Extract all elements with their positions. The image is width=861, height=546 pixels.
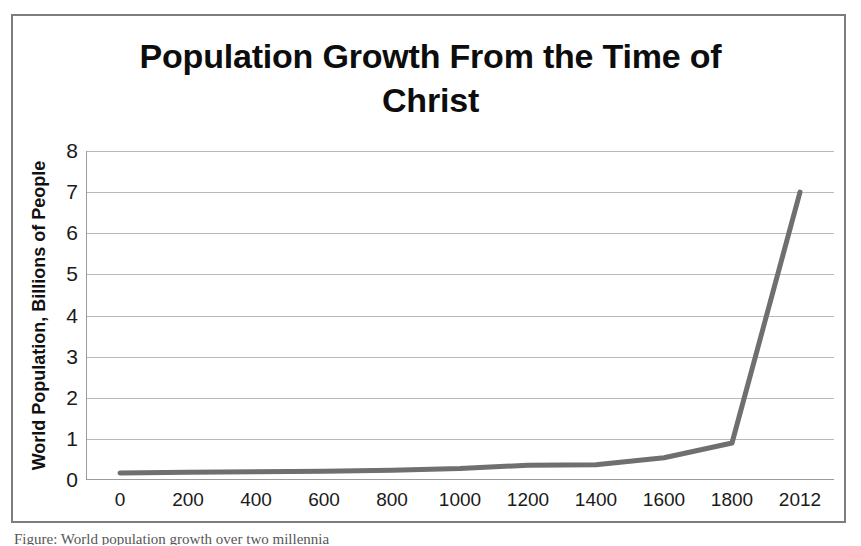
y-tick-label: 5 [42, 262, 78, 286]
x-tick-label: 600 [308, 489, 340, 511]
y-tick-label: 7 [42, 180, 78, 204]
x-tick-label: 2012 [779, 489, 821, 511]
y-tick-label: 8 [42, 139, 78, 163]
y-tick-label: 4 [42, 304, 78, 328]
series-line-chart [86, 151, 834, 480]
x-tick-label: 1400 [575, 489, 617, 511]
x-tick-label: 0 [115, 489, 126, 511]
y-tick-label: 1 [42, 427, 78, 451]
y-tick-label: 3 [42, 345, 78, 369]
chart-title: Population Growth From the Time of Chris… [53, 34, 808, 122]
y-tick-label: 2 [42, 386, 78, 410]
x-axis-tick-labels: 0200400600800100012001400160018002012 [86, 489, 834, 515]
x-tick-label: 400 [240, 489, 272, 511]
x-tick-label: 800 [376, 489, 408, 511]
page-caption: Figure: World population growth over two… [14, 531, 714, 545]
population-series-line [120, 192, 800, 473]
plot-wrapper [86, 151, 834, 480]
x-tick-label: 200 [172, 489, 204, 511]
x-tick-label: 1600 [643, 489, 685, 511]
y-axis-tick-labels: 012345678 [38, 151, 78, 480]
y-tick-label: 6 [42, 221, 78, 245]
y-tick-label: 0 [42, 468, 78, 492]
x-tick-label: 1000 [439, 489, 481, 511]
x-tick-label: 1800 [711, 489, 753, 511]
x-tick-label: 1200 [507, 489, 549, 511]
